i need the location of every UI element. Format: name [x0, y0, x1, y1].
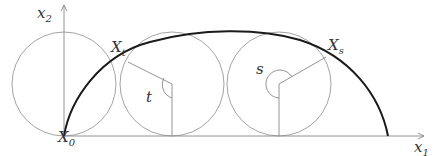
- angle-s-label: s: [256, 62, 264, 77]
- x2-axis-label: x2: [37, 6, 52, 24]
- x1-axis-label: x1: [414, 140, 429, 156]
- cycloid-diagram: x2 x1 X0 Xt Xs t s: [0, 0, 438, 156]
- radius-s: [279, 57, 326, 136]
- point-t-label: Xt: [111, 40, 126, 58]
- point-s-label: Xs: [328, 38, 344, 56]
- angle-arc-t: [162, 78, 172, 98]
- angle-t-label: t: [146, 90, 152, 105]
- origin-label: X0: [58, 130, 75, 148]
